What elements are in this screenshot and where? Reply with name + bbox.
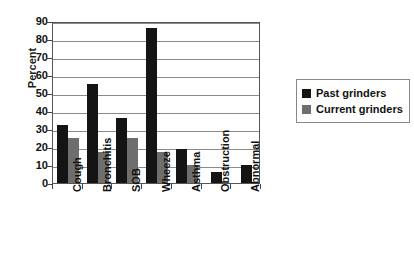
bar xyxy=(87,84,98,183)
x-axis-tick-mark xyxy=(52,184,53,189)
x-axis-category-label: Asthma xyxy=(191,152,202,192)
legend-label-past-grinders: Past grinders xyxy=(316,88,386,99)
y-axis-tick-label: 10 xyxy=(22,160,48,171)
x-axis-category-label: SOB xyxy=(131,168,142,192)
x-axis-category-label: Bronchitis xyxy=(102,138,113,192)
bar xyxy=(176,149,187,183)
x-axis-category-label: Wheeze xyxy=(161,151,172,192)
legend-item-past-grinders: Past grinders xyxy=(302,85,403,101)
x-axis-category-label: Cough xyxy=(72,157,83,192)
chart-legend: Past grinders Current grinders xyxy=(296,79,410,123)
legend-swatch-icon-current-grinders xyxy=(302,105,311,114)
legend-label-current-grinders: Current grinders xyxy=(316,104,403,115)
legend-swatch-icon-past-grinders xyxy=(302,89,311,98)
y-axis-tick-label: 60 xyxy=(22,70,48,81)
bar xyxy=(57,125,68,183)
bar-chart-figure: Percent 9080706050403020100 CoughBronchi… xyxy=(0,0,414,266)
x-axis-category-label: Obstruction xyxy=(220,130,231,192)
y-axis-tick-label: 40 xyxy=(22,106,48,117)
y-axis-tick-label: 0 xyxy=(22,178,48,189)
y-axis-tick-label: 90 xyxy=(22,16,48,27)
bar xyxy=(116,118,127,183)
x-axis-category-label: Abnormal xyxy=(250,141,261,192)
legend-item-current-grinders: Current grinders xyxy=(302,101,403,117)
y-axis-tick-label: 80 xyxy=(22,34,48,45)
bar-group xyxy=(112,23,142,183)
y-axis-tick-label: 20 xyxy=(22,142,48,153)
bar xyxy=(146,28,157,183)
y-axis-tick-label: 50 xyxy=(22,88,48,99)
y-axis-tick-label: 70 xyxy=(22,52,48,63)
y-axis-tick-label: 30 xyxy=(22,124,48,135)
